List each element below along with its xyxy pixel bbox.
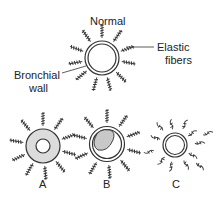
- bronchial-wall-leader: [62, 66, 86, 73]
- label-bronchial: Bronchial: [14, 69, 60, 81]
- label-c: C: [172, 178, 180, 190]
- bronchus-diagram: [0, 0, 217, 197]
- bronchus-a: [9, 112, 76, 180]
- bronchial-wall-inner: [88, 44, 116, 72]
- bronchus-c: [144, 119, 213, 172]
- title-normal: Normal: [90, 15, 125, 27]
- label-elastic: Elastic: [157, 41, 189, 53]
- bronchus-b: [73, 109, 142, 179]
- label-wall: wall: [29, 82, 48, 94]
- normal-bronchus: [62, 24, 154, 91]
- label-a: A: [39, 178, 46, 190]
- label-fibers: fibers: [165, 54, 192, 66]
- narrowed-lumen: [36, 139, 50, 153]
- label-b: B: [103, 178, 110, 190]
